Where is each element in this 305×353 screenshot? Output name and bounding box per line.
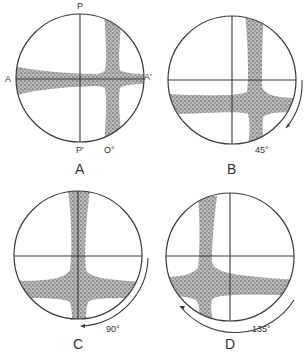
panel-a	[14, 10, 146, 146]
panel-caption-b: B	[227, 162, 236, 176]
panel-b	[166, 14, 302, 146]
pole-top-label: P	[77, 2, 83, 11]
panel-c	[12, 190, 148, 328]
rotation-label-a: O°	[104, 146, 115, 155]
axis-left-label: A	[5, 75, 11, 84]
panel-caption-d: D	[225, 337, 235, 351]
rotation-label-b: 45°	[255, 146, 269, 155]
rotation-arrow-d	[180, 300, 294, 333]
panel-d	[160, 193, 300, 333]
rotation-label-c: 90°	[106, 325, 120, 334]
pole-bottom-label: P'	[76, 146, 84, 155]
panel-caption-a: A	[75, 162, 84, 176]
axis-right-label: A'	[144, 73, 152, 82]
rotation-label-d: 135°	[252, 325, 271, 334]
panel-caption-c: C	[73, 337, 83, 351]
diagram-canvas	[0, 0, 305, 353]
arrowhead-icon	[80, 324, 85, 328]
